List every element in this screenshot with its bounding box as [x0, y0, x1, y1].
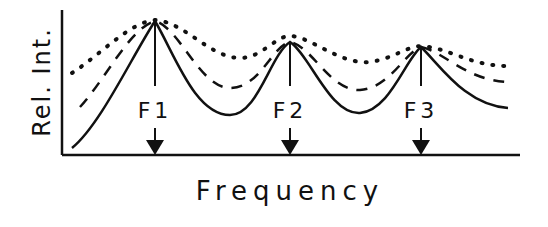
- formant-f1-marker: [146, 22, 164, 155]
- formant-label-f1: F1: [138, 98, 173, 123]
- curve-dashed: [80, 21, 508, 107]
- x-axis-label: Frequency: [196, 176, 384, 206]
- formant-diagram: F1 F2 F3 Rel. Int. Frequency: [0, 0, 548, 227]
- arrow-down-icon: [412, 140, 430, 155]
- arrow-down-icon: [146, 140, 164, 155]
- formant-label-f3: F3: [404, 98, 439, 123]
- y-axis-label: Rel. Int.: [28, 27, 56, 137]
- arrow-down-icon: [281, 140, 299, 155]
- formant-label-f2: F2: [273, 98, 308, 123]
